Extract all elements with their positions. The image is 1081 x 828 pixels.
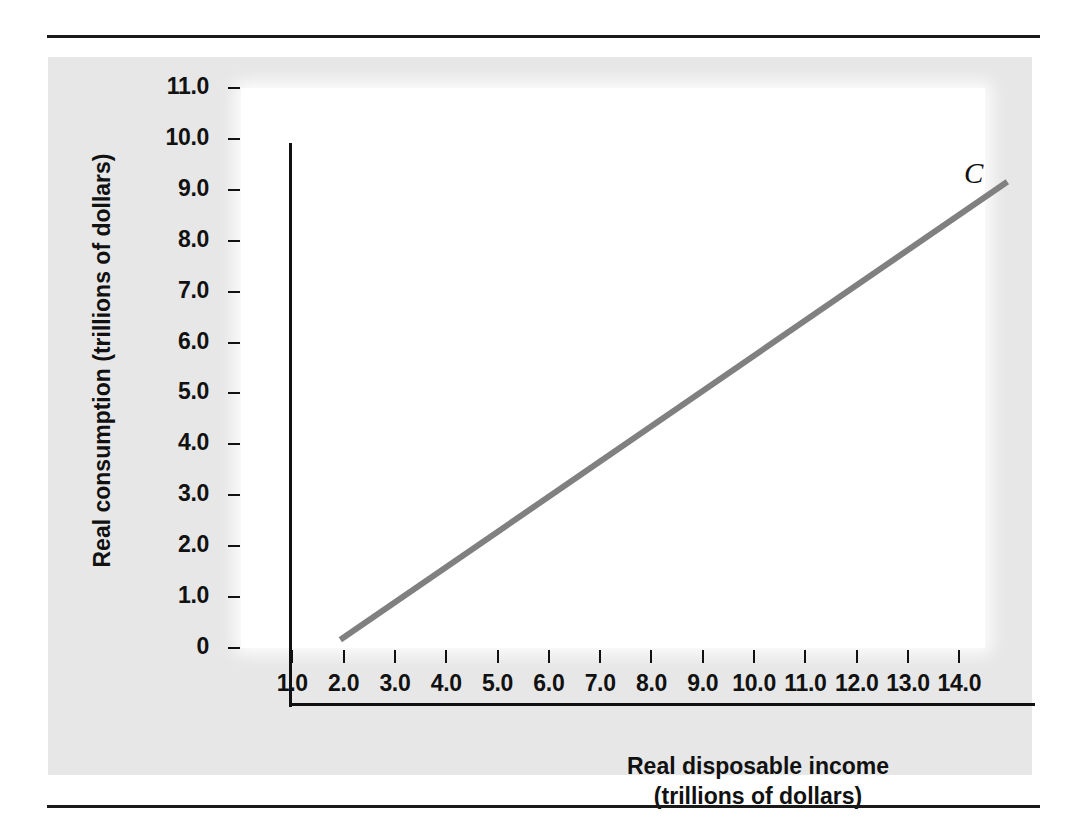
y-tick-label: 8.0: [48, 226, 217, 253]
y-tick-label: 0: [48, 633, 217, 660]
bottom-rule: [47, 805, 1040, 808]
x-tick-label: 10.0: [732, 670, 776, 697]
x-tick-label: 5.0: [482, 670, 513, 697]
y-tick-mark: [228, 494, 240, 496]
x-tick-label: 3.0: [379, 670, 410, 697]
x-tick-label: 14.0: [938, 670, 982, 697]
x-axis-line: [289, 703, 1035, 706]
y-tick-mark: [228, 138, 240, 140]
x-tick-label: 1.0: [277, 670, 308, 697]
x-tick-mark: [343, 650, 345, 663]
x-tick-mark: [856, 650, 858, 663]
series-label-c: C: [964, 157, 983, 190]
y-tick-mark: [228, 87, 240, 89]
x-tick-label: 7.0: [585, 670, 616, 697]
plot-area: [241, 88, 985, 648]
x-tick-label: 11.0: [784, 670, 826, 697]
y-tick-label: 6.0: [48, 328, 217, 355]
x-tick-label: 2.0: [328, 670, 359, 697]
y-tick-label: 4.0: [48, 429, 217, 456]
y-tick-label: 7.0: [48, 277, 217, 304]
y-tick-mark: [228, 443, 240, 445]
x-tick-mark: [753, 650, 755, 663]
x-tick-mark: [804, 650, 806, 663]
y-axis-line: [289, 143, 292, 707]
x-tick-label: 9.0: [687, 670, 718, 697]
x-axis-title-line1: Real disposable income: [528, 751, 988, 781]
x-tick-label: 6.0: [533, 670, 564, 697]
y-tick-mark: [228, 189, 240, 191]
y-tick-label: 10.0: [48, 124, 217, 151]
y-tick-mark: [228, 240, 240, 242]
x-tick-mark: [394, 650, 396, 663]
x-tick-mark: [445, 650, 447, 663]
y-tick-mark: [228, 647, 240, 649]
y-tick-mark: [228, 596, 240, 598]
x-tick-label: 8.0: [636, 670, 667, 697]
figure-panel: 01.02.03.04.05.06.07.08.09.010.011.0 1.0…: [48, 57, 1032, 775]
y-tick-mark: [228, 545, 240, 547]
x-tick-mark: [907, 650, 909, 663]
x-tick-mark: [548, 650, 550, 663]
y-tick-label: 5.0: [48, 378, 217, 405]
y-tick-mark: [228, 291, 240, 293]
y-tick-label: 2.0: [48, 531, 217, 558]
x-tick-mark: [291, 650, 293, 663]
y-axis-title: Real consumption (trillions of dollars): [89, 121, 116, 601]
y-tick-label: 1.0: [48, 582, 217, 609]
y-tick-label: 11.0: [48, 73, 217, 100]
x-tick-mark: [497, 650, 499, 663]
x-tick-mark: [599, 650, 601, 663]
x-tick-label: 13.0: [886, 670, 930, 697]
x-tick-mark: [702, 650, 704, 663]
x-axis-title: Real disposable income (trillions of dol…: [528, 751, 988, 811]
y-tick-mark: [228, 392, 240, 394]
x-tick-mark: [958, 650, 960, 663]
x-tick-mark: [650, 650, 652, 663]
x-tick-label: 4.0: [431, 670, 462, 697]
y-tick-mark: [228, 342, 240, 344]
x-tick-label: 12.0: [835, 670, 879, 697]
top-rule: [47, 35, 1040, 38]
y-tick-label: 3.0: [48, 480, 217, 507]
y-tick-label: 9.0: [48, 175, 217, 202]
